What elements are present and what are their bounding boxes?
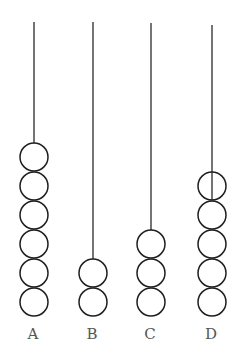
bead xyxy=(79,259,107,287)
bead xyxy=(79,288,107,316)
rod-label: B xyxy=(86,325,97,343)
bead xyxy=(20,259,48,287)
abacus-diagram: ABCD xyxy=(0,0,243,356)
rod-b: B xyxy=(79,22,107,343)
bead xyxy=(198,201,226,229)
rod-label: A xyxy=(27,325,39,343)
bead xyxy=(20,230,48,258)
rod-d: D xyxy=(198,25,226,343)
bead xyxy=(20,288,48,316)
bead xyxy=(198,230,226,258)
bead xyxy=(20,143,48,171)
rod-c: C xyxy=(137,23,165,343)
rod-label: D xyxy=(205,325,217,343)
bead xyxy=(137,288,165,316)
bead xyxy=(137,259,165,287)
bead xyxy=(20,201,48,229)
bead xyxy=(198,288,226,316)
bead xyxy=(198,259,226,287)
rod-label: C xyxy=(144,325,155,343)
bead xyxy=(20,172,48,200)
bead xyxy=(137,230,165,258)
rod-a: A xyxy=(20,22,48,343)
